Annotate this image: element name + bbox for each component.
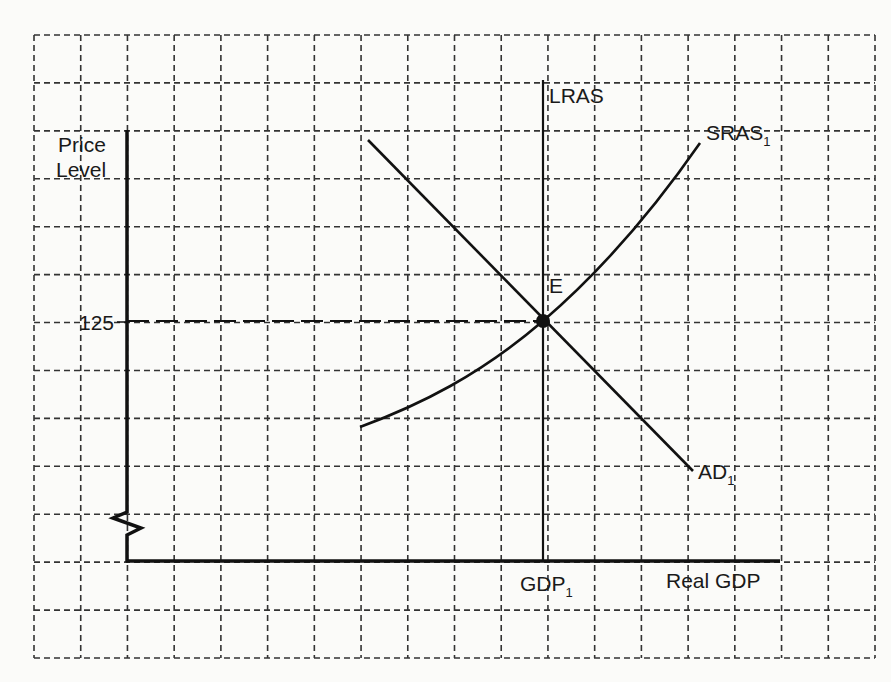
sras-label: SRAS1: [706, 121, 770, 149]
gdp1-label: GDP1: [520, 572, 573, 600]
equilibrium-point: [536, 314, 550, 328]
ad-curve: [368, 140, 693, 471]
price-tick-label: 125: [79, 311, 114, 334]
x-axis-label: Real GDP: [666, 569, 761, 592]
ad-as-diagram: Price Level 125 LRAS SRAS1 AD1 E GDP1 Re…: [0, 0, 891, 682]
equilibrium-label: E: [549, 274, 563, 297]
ad-label: AD1: [698, 460, 734, 488]
y-axis: [113, 130, 141, 562]
y-axis-label-level: Level: [56, 158, 106, 181]
y-axis-label-price: Price: [58, 133, 106, 156]
lras-label: LRAS: [549, 84, 604, 107]
